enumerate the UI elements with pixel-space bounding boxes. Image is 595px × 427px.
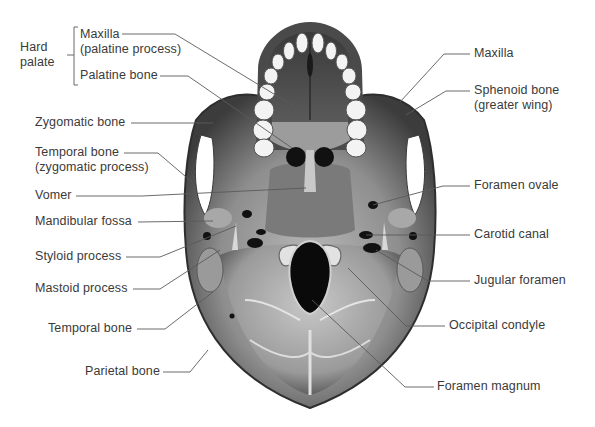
label-temporal-bone: Temporal bone: [48, 321, 132, 336]
hard-palate-group-label: Hard palate: [20, 40, 64, 70]
label-maxilla: Maxilla: [474, 46, 514, 61]
label-styloid-process: Styloid process: [35, 249, 121, 264]
label-temporal-bone-zygomatic-process: Temporal bone (zygomatic process): [35, 145, 149, 175]
label-occipital-condyle: Occipital condyle: [449, 318, 545, 333]
label-parietal-bone: Parietal bone: [85, 364, 160, 379]
label-foramen-ovale: Foramen ovale: [474, 178, 559, 193]
label-foramen-magnum: Foramen magnum: [437, 379, 541, 394]
label-mandibular-fossa: Mandibular fossa: [35, 214, 132, 229]
label-carotid-canal: Carotid canal: [474, 227, 549, 242]
label-palatine-bone: Palatine bone: [80, 68, 158, 83]
skull-inferior-view-diagram: Hard palate Maxilla (palatine process) P…: [0, 0, 595, 427]
label-maxilla-palatine-process: Maxilla (palatine process): [80, 27, 181, 57]
hard-palate-label-line1: Hard: [20, 40, 64, 55]
label-zygomatic-bone: Zygomatic bone: [35, 115, 125, 130]
label-vomer: Vomer: [35, 188, 72, 203]
hard-palate-label-line2: palate: [20, 55, 64, 70]
label-jugular-foramen: Jugular foramen: [474, 273, 566, 288]
label-sphenoid-bone-greater-wing: Sphenoid bone (greater wing): [474, 83, 559, 113]
label-mastoid-process: Mastoid process: [35, 281, 128, 296]
